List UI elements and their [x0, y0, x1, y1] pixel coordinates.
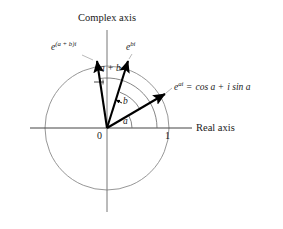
e-exponent-sum: (a + b)i — [55, 40, 76, 47]
diagram-canvas — [0, 0, 283, 229]
leader-line-e-a-plus-b-i — [82, 55, 93, 60]
e-exponent-b: bi — [130, 40, 135, 47]
i-sin-term: i sin a — [227, 82, 250, 92]
label-angle-a: a — [123, 117, 128, 127]
equals-sign: = — [187, 82, 193, 92]
label-e-b-i: ebi — [126, 41, 136, 53]
leader-line-e-ai — [166, 88, 172, 93]
pointer-angle-b — [116, 100, 122, 103]
plus-sign: + — [218, 82, 224, 92]
origin-label: 0 — [97, 131, 102, 141]
unit-point-label: 1 — [165, 131, 170, 141]
angle-arc-a — [129, 116, 132, 128]
label-sum-vector: a + b — [100, 64, 121, 74]
label-e-a-plus-b-i: e(a + b)i — [51, 41, 76, 53]
real-axis-label: Real axis — [196, 123, 235, 134]
complex-axis-label: Complex axis — [78, 13, 136, 24]
euler-formula-diagram: Complex axis Real axis e(a + b)i ebi eai… — [0, 0, 283, 229]
label-euler-equation: eai=cos a+i sin a — [174, 81, 250, 93]
e-exponent-a: ai — [178, 80, 183, 87]
cos-term: cos a — [195, 82, 215, 92]
leader-line-e-bi — [129, 54, 132, 59]
label-angle-b: b — [123, 97, 128, 107]
